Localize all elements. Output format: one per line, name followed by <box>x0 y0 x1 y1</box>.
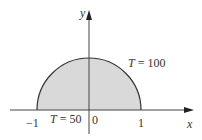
tick-label-zero: 0 <box>92 113 98 127</box>
y-axis-arrow-icon <box>86 10 92 20</box>
y-axis-label: y <box>79 6 86 20</box>
tick-label-neg-one: −1 <box>26 116 39 130</box>
arc-temperature-label: T = 100 <box>128 56 165 70</box>
x-axis-label: x <box>186 117 193 131</box>
base-temperature-label: T = 50 <box>50 112 81 126</box>
x-axis-arrow-icon <box>184 107 194 113</box>
diagram-canvas: y x −1 0 1 T = 100 T = 50 <box>0 0 202 140</box>
tick-label-one: 1 <box>138 116 144 130</box>
